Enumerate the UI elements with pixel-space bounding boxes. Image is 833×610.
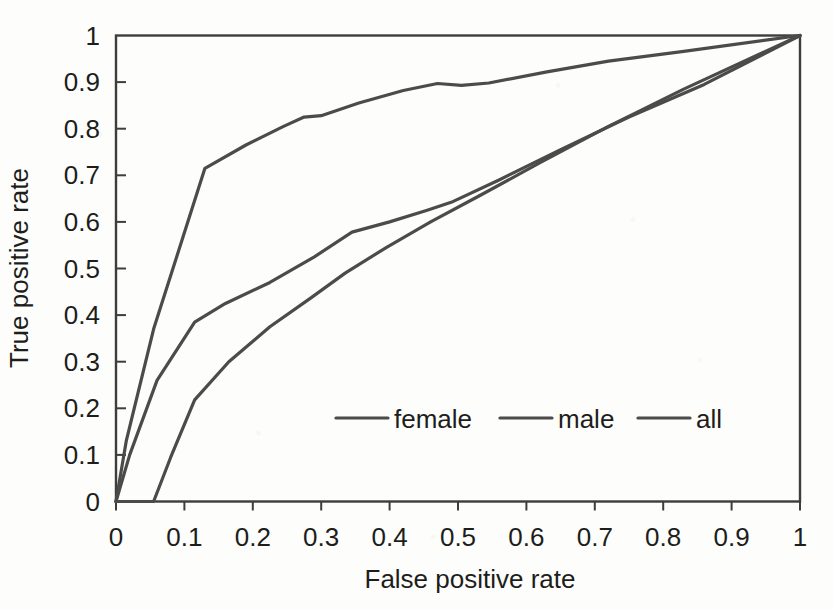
- y-tick-label: 0.3: [64, 347, 100, 377]
- x-tick-label: 0.2: [235, 522, 271, 552]
- x-tick-label: 0: [109, 522, 123, 552]
- roc-chart: 00.10.20.30.40.50.60.70.80.91 00.10.20.3…: [0, 0, 833, 610]
- x-tick-label: 0.3: [303, 522, 339, 552]
- x-tick-label: 0.8: [645, 522, 681, 552]
- x-axis-title: False positive rate: [365, 564, 576, 594]
- y-axis-ticks: [116, 82, 126, 455]
- y-axis-title: True positive rate: [4, 168, 34, 368]
- x-tick-label: 0.1: [166, 522, 202, 552]
- y-tick-label: 0.9: [64, 67, 100, 97]
- y-axis-tick-labels: 00.10.20.30.40.50.60.70.80.91: [64, 21, 100, 517]
- y-tick-label: 0.5: [64, 254, 100, 284]
- legend-label-male: male: [558, 404, 614, 434]
- y-tick-label: 0: [86, 487, 100, 517]
- legend-label-all: all: [696, 404, 722, 434]
- x-tick-label: 0.4: [372, 522, 408, 552]
- y-tick-label: 0.6: [64, 207, 100, 237]
- chart-legend: femalemaleall: [336, 404, 722, 434]
- x-tick-label: 0.5: [440, 522, 476, 552]
- y-tick-label: 0.4: [64, 300, 100, 330]
- x-tick-label: 0.7: [577, 522, 613, 552]
- legend-label-female: female: [394, 404, 472, 434]
- y-tick-label: 0.1: [64, 440, 100, 470]
- y-tick-label: 0.7: [64, 160, 100, 190]
- y-tick-label: 0.2: [64, 393, 100, 423]
- x-axis-tick-labels: 00.10.20.30.40.50.60.70.80.91: [109, 522, 807, 552]
- y-tick-label: 1: [86, 21, 100, 51]
- y-tick-label: 0.8: [64, 114, 100, 144]
- x-tick-label: 1: [793, 522, 807, 552]
- figure-root: 00.10.20.30.40.50.60.70.80.91 00.10.20.3…: [0, 0, 833, 610]
- x-tick-label: 0.9: [714, 522, 750, 552]
- x-tick-label: 0.6: [508, 522, 544, 552]
- x-axis-ticks: [116, 502, 800, 511]
